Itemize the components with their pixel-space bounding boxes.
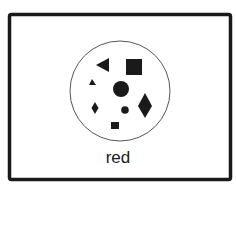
small-diamond-icon: [92, 102, 99, 114]
large-diamond-icon: [138, 93, 152, 118]
small-square-icon: [111, 122, 119, 129]
small-triangle-icon: [89, 79, 96, 85]
large-triangle-icon: [96, 58, 109, 72]
small-circle-icon: [121, 106, 129, 114]
card-label: red: [0, 148, 236, 168]
large-circle-icon: [113, 81, 129, 97]
large-square-icon: [126, 59, 142, 75]
